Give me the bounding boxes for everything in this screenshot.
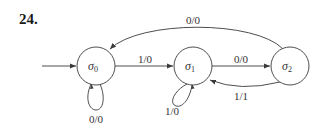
edge-label-s2-s0: 0/0	[186, 14, 201, 26]
edge-s2-s1	[210, 80, 280, 87]
state-s2-subscript: 2	[288, 65, 292, 74]
state-diagram: 1/0 0/0 1/1 0/0 0/0 1/0 σ0 σ1 σ2	[0, 0, 327, 127]
edge-label-s0-s0: 0/0	[89, 113, 104, 125]
state-s0-subscript: 0	[94, 65, 98, 74]
state-s1-subscript: 1	[191, 65, 195, 74]
state-s2: σ2	[271, 47, 309, 85]
state-s0: σ0	[77, 47, 115, 85]
edge-label-s2-s1: 1/1	[234, 90, 248, 102]
self-loop-s0	[88, 84, 103, 110]
edge-label-s1-s1: 1/0	[165, 105, 180, 117]
state-s1: σ1	[174, 47, 212, 85]
edge-label-s1-s2: 0/0	[234, 53, 249, 65]
self-loop-s1	[173, 84, 192, 106]
edge-s2-s0	[110, 27, 283, 49]
edge-label-s0-s1: 1/0	[138, 53, 153, 65]
